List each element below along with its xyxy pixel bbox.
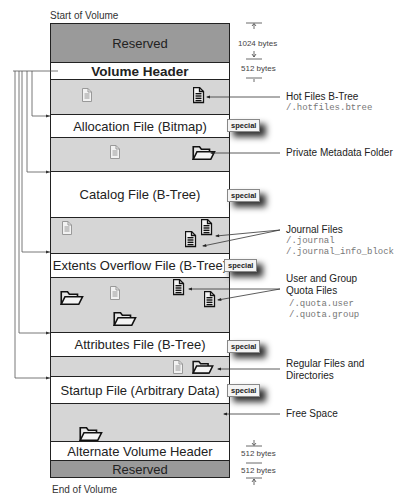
- free-space-annotation: Free Space: [286, 408, 338, 420]
- annotation-title: Regular Files and: [286, 358, 364, 370]
- regular-files-annotation: Regular Files and Directories: [286, 358, 364, 382]
- annotation-path: /.journal_info_block: [286, 247, 394, 258]
- annotation-title: Private Metadata Folder: [286, 147, 393, 159]
- annotation-path: /.hotfiles.btree: [286, 103, 372, 114]
- private-metadata-annotation: Private Metadata Folder: [286, 147, 393, 159]
- annotation-path: /.journal: [286, 236, 394, 247]
- annotation-title: Journal Files: [286, 224, 394, 236]
- annotation-title: Directories: [286, 370, 364, 382]
- annotation-title: User and Group: [286, 273, 359, 285]
- annotation-title: Hot Files B-Tree: [286, 91, 372, 103]
- journal-files-annotation: Journal Files /.journal /.journal_info_b…: [286, 224, 394, 258]
- annotation-path: /.quota.user: [286, 299, 359, 310]
- quota-files-annotation: User and Group Quota Files /.quota.user …: [286, 273, 359, 321]
- annotation-path: /.quota.group: [286, 310, 359, 321]
- annotation-title: Quota Files: [286, 285, 359, 297]
- hot-files-annotation: Hot Files B-Tree /.hotfiles.btree: [286, 91, 372, 114]
- annotation-title: Free Space: [286, 408, 338, 420]
